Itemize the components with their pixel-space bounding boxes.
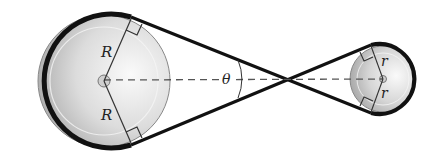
label-R-bottom: R (100, 106, 112, 124)
label-theta: θ (222, 71, 231, 87)
belt-pulley-diagram: R R r r θ (0, 0, 436, 159)
label-R-top: R (100, 43, 112, 61)
